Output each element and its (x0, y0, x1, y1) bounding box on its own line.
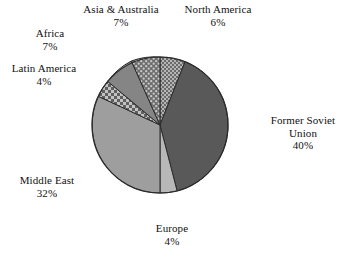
pie-label-former-soviet-union: Former Soviet Union 40% (266, 114, 340, 152)
pie-label-asia-australia-value: 7% (66, 16, 176, 29)
pie-label-asia-australia-name: Asia & Australia (66, 3, 176, 16)
pie-label-middle-east: Middle East 32% (5, 174, 89, 199)
pie-label-north-america-name: North America (168, 3, 268, 16)
pie-label-north-america: North America 6% (168, 3, 268, 28)
pie-label-former-soviet-union-value: 40% (266, 139, 340, 152)
pie-label-middle-east-name: Middle East (5, 174, 89, 187)
pie-label-europe: Europe 4% (140, 222, 204, 247)
pie-label-africa: Africa 7% (18, 27, 82, 52)
pie-label-middle-east-value: 32% (5, 187, 89, 200)
pie-label-africa-value: 7% (18, 40, 82, 53)
pie-label-latin-america-name: Latin America (2, 62, 86, 75)
pie-label-latin-america: Latin America 4% (2, 62, 86, 87)
pie-label-africa-name: Africa (18, 27, 82, 40)
pie-label-north-america-value: 6% (168, 16, 268, 29)
pie-label-europe-name: Europe (140, 222, 204, 235)
pie-label-asia-australia: Asia & Australia 7% (66, 3, 176, 28)
pie-chart-figure: Asia & Australia 7% North America 6% Afr… (0, 0, 343, 258)
pie-label-latin-america-value: 4% (2, 75, 86, 88)
pie-label-europe-value: 4% (140, 235, 204, 248)
pie-label-former-soviet-union-name-1: Former Soviet (266, 114, 340, 127)
pie-label-former-soviet-union-name-2: Union (266, 127, 340, 140)
